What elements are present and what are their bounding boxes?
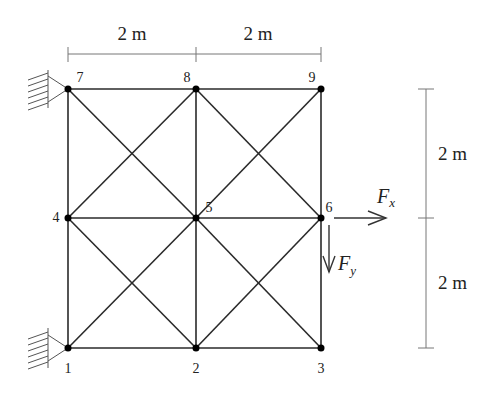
dim-label-top-right: 2 m: [243, 23, 272, 44]
support-node-7: [28, 70, 68, 110]
dim-label-right-upper: 2 m: [438, 143, 467, 164]
load-fx: Fx: [334, 185, 395, 225]
node-label-4: 4: [53, 210, 60, 225]
node-label-1: 1: [65, 361, 72, 376]
node-2: [193, 345, 200, 352]
truss-diagram: 2 m 2 m 2 m 2 m: [0, 0, 496, 399]
support-node-1: [28, 328, 68, 369]
node-label-6: 6: [326, 200, 333, 215]
right-dimension: 2 m 2 m: [418, 89, 467, 348]
load-fy: Fy: [323, 225, 356, 278]
node-5: [193, 215, 200, 222]
node-label-9: 9: [309, 70, 316, 85]
node-7: [65, 86, 72, 93]
force-label-fy: Fy: [337, 252, 356, 278]
node-label-7: 7: [77, 70, 84, 85]
dim-label-top-left: 2 m: [117, 23, 146, 44]
node-9: [318, 86, 325, 93]
node-label-5: 5: [206, 200, 213, 215]
force-label-fx: Fx: [376, 185, 395, 210]
node-4: [65, 215, 72, 222]
node-6: [318, 215, 325, 222]
node-label-8: 8: [184, 70, 191, 85]
node-3: [318, 345, 325, 352]
dim-label-right-lower: 2 m: [438, 272, 467, 293]
node-label-2: 2: [193, 361, 200, 376]
node-1: [65, 345, 72, 352]
top-dimension: 2 m 2 m: [68, 23, 321, 62]
node-label-3: 3: [318, 361, 325, 376]
node-8: [193, 86, 200, 93]
